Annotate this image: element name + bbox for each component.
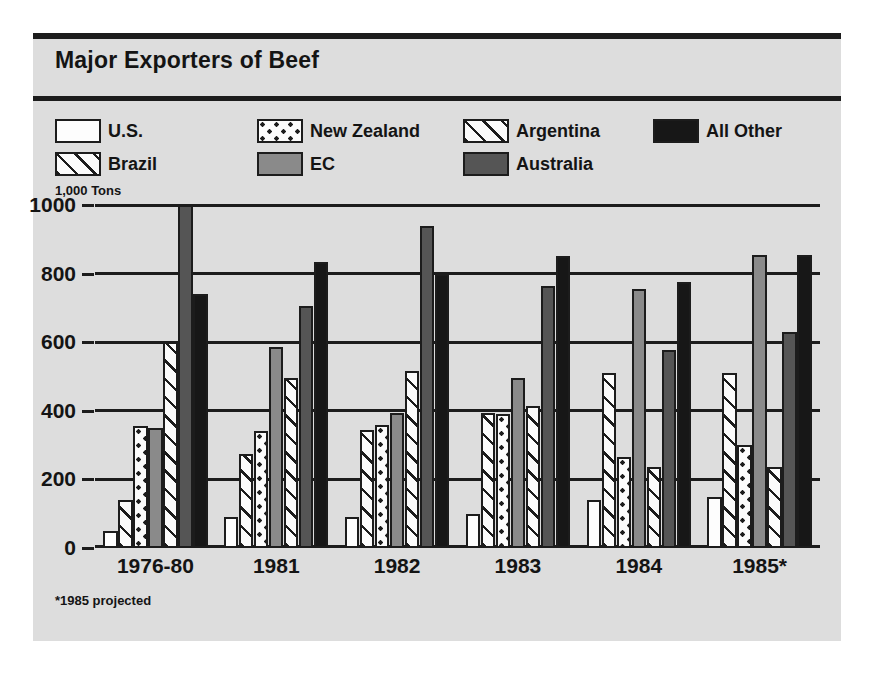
legend-swatch-australia	[463, 152, 509, 176]
plot-wrapper: 1,000 Tons 020040060080010001976-8019811…	[33, 183, 841, 641]
page-title: Major Exporters of Beef	[55, 47, 319, 74]
bar-us-1983[interactable]	[466, 514, 480, 548]
legend-label-nz: New Zealand	[310, 121, 420, 142]
y-axis-tick-label: 400	[41, 399, 76, 423]
bar-brazil-1983[interactable]	[481, 413, 495, 548]
y-axis-tick-label: 1000	[29, 193, 76, 217]
y-tick-mark-200	[82, 478, 94, 481]
bar-brazil-1984[interactable]	[602, 373, 616, 548]
bar-australia-1976-80[interactable]	[178, 205, 192, 548]
bar-argentina-1984[interactable]	[647, 467, 661, 548]
y-axis-tick-label: 800	[41, 262, 76, 286]
bar-group-5: 1985*	[699, 205, 820, 548]
chart-legend: U.S.BrazilNew ZealandECArgentinaAustrali…	[55, 119, 835, 183]
bar-ec-1983[interactable]	[511, 378, 525, 548]
x-axis-tick-label: 1976-80	[95, 554, 216, 578]
y-axis-tick-label: 200	[41, 467, 76, 491]
bar-nz-1976-80[interactable]	[133, 426, 147, 548]
legend-label-brazil: Brazil	[108, 154, 157, 175]
y-tick-mark-1000	[82, 204, 94, 207]
legend-label-ec: EC	[310, 154, 335, 175]
bar-us-1976-80[interactable]	[103, 531, 117, 548]
legend-swatch-brazil	[55, 152, 101, 176]
legend-swatch-argentina	[463, 119, 509, 143]
legend-item-ec: EC	[257, 152, 335, 176]
bar-group-0: 1976-80	[95, 205, 216, 548]
y-axis-tick-label: 600	[41, 330, 76, 354]
y-tick-mark-800	[82, 273, 94, 276]
bar-argentina-1981[interactable]	[284, 378, 298, 548]
legend-label-australia: Australia	[516, 154, 593, 175]
legend-item-nz: New Zealand	[257, 119, 420, 143]
bar-nz-1985[interactable]	[737, 445, 751, 548]
bar-group-1: 1981	[216, 205, 337, 548]
bar-brazil-1981[interactable]	[239, 454, 253, 548]
legend-label-allother: All Other	[706, 121, 782, 142]
x-axis-tick-label: 1985*	[699, 554, 820, 578]
bar-ec-1976-80[interactable]	[148, 428, 162, 548]
bar-allother-1984[interactable]	[677, 282, 691, 548]
bar-nz-1984[interactable]	[617, 457, 631, 548]
bar-brazil-1976-80[interactable]	[118, 500, 132, 548]
bar-nz-1982[interactable]	[375, 425, 389, 548]
bar-allother-1982[interactable]	[435, 274, 449, 548]
y-axis-tick-label: 0	[64, 536, 76, 560]
bar-allother-1976-80[interactable]	[193, 294, 207, 548]
bar-argentina-1983[interactable]	[526, 406, 540, 548]
bar-argentina-1982[interactable]	[405, 371, 419, 548]
legend-item-allother: All Other	[653, 119, 782, 143]
bar-ec-1985[interactable]	[752, 255, 766, 548]
bar-group-4: 1984	[578, 205, 699, 548]
bar-ec-1981[interactable]	[269, 347, 283, 548]
legend-swatch-allother	[653, 119, 699, 143]
bar-australia-1985[interactable]	[782, 332, 796, 548]
bar-us-1982[interactable]	[345, 517, 359, 548]
legend-label-us: U.S.	[108, 121, 143, 142]
bar-nz-1981[interactable]	[254, 431, 268, 548]
bar-us-1981[interactable]	[224, 517, 238, 548]
chart-footnote: *1985 projected	[55, 593, 151, 608]
bar-brazil-1985[interactable]	[722, 373, 736, 548]
legend-item-australia: Australia	[463, 152, 593, 176]
bar-allother-1985[interactable]	[797, 255, 811, 548]
bar-argentina-1976-80[interactable]	[163, 342, 177, 548]
bar-australia-1982[interactable]	[420, 226, 434, 548]
legend-swatch-us	[55, 119, 101, 143]
bar-australia-1983[interactable]	[541, 286, 555, 548]
title-underline-rule	[33, 96, 841, 101]
bar-us-1985[interactable]	[707, 497, 721, 548]
figure-panel: Major Exporters of Beef U.S.BrazilNew Ze…	[33, 33, 841, 641]
bar-us-1984[interactable]	[587, 500, 601, 548]
bar-group-3: 1983	[458, 205, 579, 548]
bar-argentina-1985[interactable]	[767, 467, 781, 548]
plot-area: 020040060080010001976-801981198219831984…	[95, 205, 820, 548]
y-tick-mark-400	[82, 410, 94, 413]
bar-brazil-1982[interactable]	[360, 430, 374, 548]
x-axis-tick-label: 1982	[337, 554, 458, 578]
bar-australia-1984[interactable]	[662, 350, 676, 548]
x-axis-tick-label: 1984	[578, 554, 699, 578]
bar-ec-1984[interactable]	[632, 289, 646, 548]
bar-group-2: 1982	[337, 205, 458, 548]
x-axis-tick-label: 1981	[216, 554, 337, 578]
legend-item-argentina: Argentina	[463, 119, 600, 143]
bar-australia-1981[interactable]	[299, 306, 313, 548]
bar-ec-1982[interactable]	[390, 413, 404, 548]
y-tick-mark-0	[82, 547, 94, 550]
bar-nz-1983[interactable]	[496, 414, 510, 548]
legend-item-brazil: Brazil	[55, 152, 157, 176]
legend-label-argentina: Argentina	[516, 121, 600, 142]
y-tick-mark-600	[82, 341, 94, 344]
x-axis-tick-label: 1983	[458, 554, 579, 578]
legend-item-us: U.S.	[55, 119, 143, 143]
top-rule	[33, 33, 841, 39]
bar-allother-1983[interactable]	[556, 256, 570, 548]
legend-swatch-ec	[257, 152, 303, 176]
bar-allother-1981[interactable]	[314, 262, 328, 548]
legend-swatch-nz	[257, 119, 303, 143]
